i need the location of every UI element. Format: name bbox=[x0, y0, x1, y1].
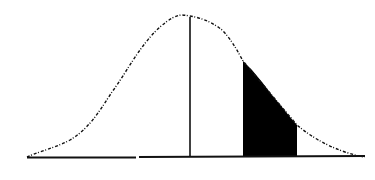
shaded-region bbox=[243, 61, 297, 157]
bell-curve bbox=[27, 15, 365, 157]
baseline-axis-right bbox=[139, 156, 365, 157]
normal-distribution-diagram bbox=[0, 0, 375, 180]
